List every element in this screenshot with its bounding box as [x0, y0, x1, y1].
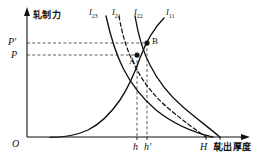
curve-label-i21: I21 [112, 8, 121, 19]
curve-label-i21-sub: 21 [115, 13, 121, 19]
x-tick-label-h-prime: h′ [144, 142, 151, 152]
x-tick-label-big-h-prime: H′ [213, 142, 222, 152]
curve-label-i11-sub: 11 [169, 13, 175, 19]
x-tick-label-big-h: H [200, 142, 207, 152]
y-tick-label-p-prime: P′ [8, 37, 16, 47]
y-axis-arrowhead [24, 7, 30, 16]
rolling-force-thickness-diagram: 轧制力 轧出厚度 O P′ P h h′ H H′ I23 I21 I22 I1… [0, 0, 257, 165]
y-tick-label-p: P [11, 50, 17, 60]
curve-label-i22-sub: 22 [137, 13, 143, 19]
y-axis-title: 轧制力 [33, 11, 61, 20]
curve-label-i23-sub: 23 [92, 13, 98, 19]
x-tick-label-h: h [133, 142, 138, 152]
point-b-label: B [152, 37, 158, 46]
point-b-marker [144, 40, 149, 45]
curve-label-i23: I23 [89, 8, 98, 19]
x-axis-arrowhead [241, 134, 250, 140]
curve-label-i11: I11 [166, 8, 175, 19]
curve-i22-plastic [135, 16, 220, 137]
curve-i11-mill-spring [50, 18, 164, 137]
curve-group [50, 16, 220, 137]
point-a-label: A [129, 57, 136, 66]
curve-label-i22: I22 [134, 8, 143, 19]
origin-label: O [12, 139, 19, 149]
